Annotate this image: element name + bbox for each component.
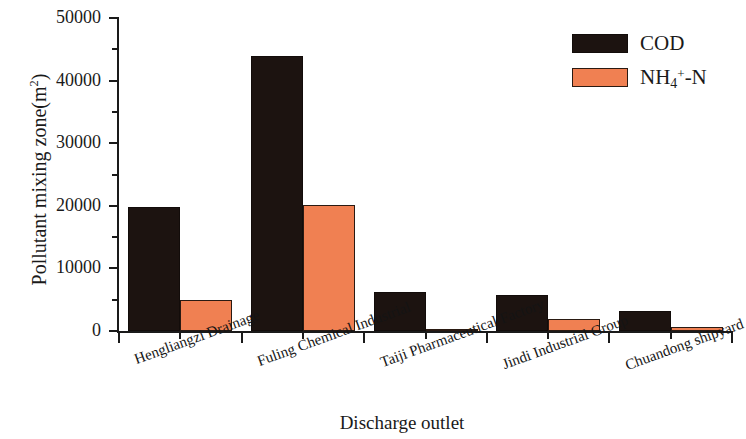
bar-COD-0 (128, 207, 180, 331)
y-tick-minor-25000 (112, 174, 118, 176)
y-tick-label: 50000 (56, 7, 109, 28)
legend-label-superscript: + (677, 66, 684, 81)
y-tick-40000: 40000 (109, 80, 118, 82)
x-tick-minor (670, 333, 672, 339)
legend-label-tail: -N (685, 65, 707, 89)
y-tick-minor-5000 (112, 299, 118, 301)
y-tick-label: 30000 (56, 132, 109, 153)
x-tick-major (241, 333, 243, 343)
y-tick-minor-15000 (112, 236, 118, 238)
y-tick-0: 0 (109, 330, 118, 332)
y-axis-title: Pollutant mixing zone(m2) (28, 15, 51, 345)
bar-COD-1 (251, 56, 303, 331)
y-tick-label: 10000 (56, 257, 109, 278)
legend-swatch-icon (572, 68, 628, 87)
y-axis-title-exponent: 2 (27, 80, 41, 86)
y-tick-minor-45000 (112, 48, 118, 50)
legend-item-COD[interactable]: COD (572, 26, 707, 60)
x-tick-major (486, 333, 488, 343)
legend-swatch-icon (572, 34, 628, 53)
x-tick-major (118, 333, 120, 343)
y-axis-title-base: Pollutant mixing zone(m (28, 87, 50, 286)
y-tick-30000: 30000 (109, 142, 118, 144)
y-tick-minor-35000 (112, 111, 118, 113)
chart-legend: CODNH4+-N (572, 26, 707, 94)
y-tick-20000: 20000 (109, 205, 118, 207)
y-tick-label: 0 (92, 320, 109, 341)
y-tick-label: 20000 (56, 195, 109, 216)
bar-NH4N-1 (303, 205, 355, 331)
legend-label: COD (640, 33, 684, 54)
y-axis-title-tail: ) (28, 74, 50, 81)
y-tick-50000: 50000 (109, 17, 118, 19)
legend-item-NH4N[interactable]: NH4+-N (572, 60, 707, 94)
legend-label: NH4+-N (640, 67, 707, 88)
legend-label-base: NH (640, 65, 670, 89)
y-tick-10000: 10000 (109, 267, 118, 269)
x-axis-title: Discharge outlet (0, 412, 744, 434)
y-tick-label: 40000 (56, 70, 109, 91)
x-tick-major (363, 333, 365, 343)
